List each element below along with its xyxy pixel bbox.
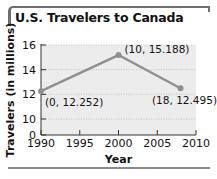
x-tick-label: 1990 xyxy=(27,137,55,150)
chart-svg: 01012141619901995200020052010 (0, 12.252… xyxy=(0,0,217,179)
y-tick-label: 16 xyxy=(22,39,36,52)
data-label: (18, 12.495) xyxy=(152,94,217,106)
x-axis-title: Year xyxy=(104,153,133,166)
data-point xyxy=(178,85,184,91)
x-tick-label: 1995 xyxy=(66,137,94,150)
data-point xyxy=(38,88,44,94)
plot-background xyxy=(41,45,196,135)
bottom-rule xyxy=(8,167,210,169)
x-tick-label: 2005 xyxy=(143,137,171,150)
x-tick-label: 2010 xyxy=(182,137,210,150)
y-tick-label: 12 xyxy=(22,88,36,101)
y-tick-label: 14 xyxy=(22,64,36,77)
y-tick-label: 10 xyxy=(22,113,36,126)
data-point xyxy=(116,52,122,58)
data-label: (10, 15.188) xyxy=(125,43,190,55)
y-axis-title: Travelers (in millions) xyxy=(4,23,17,158)
data-label: (0, 12.252) xyxy=(45,96,103,108)
x-tick-label: 2000 xyxy=(105,137,133,150)
